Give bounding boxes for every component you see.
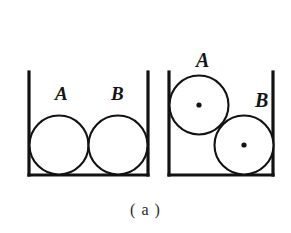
right-panel-ball-a-center-dot bbox=[196, 102, 201, 107]
right-panel-group: A B bbox=[169, 49, 274, 175]
figure-caption: ( a ) bbox=[130, 201, 161, 219]
figure-panel-a: A B A B ( a ) bbox=[0, 0, 291, 233]
left-panel-ball-a-label: A bbox=[54, 83, 68, 104]
left-panel-ball-b bbox=[89, 116, 148, 175]
figure-drawing: A B A B ( a ) bbox=[0, 0, 291, 233]
left-panel-group: A B bbox=[29, 72, 148, 175]
right-panel-ball-a-label: A bbox=[194, 49, 209, 71]
right-panel-ball-b-label: B bbox=[254, 89, 268, 111]
left-panel-ball-a bbox=[30, 116, 89, 175]
right-panel-ball-b-center-dot bbox=[241, 142, 246, 147]
left-panel-ball-b-label: B bbox=[110, 83, 124, 104]
